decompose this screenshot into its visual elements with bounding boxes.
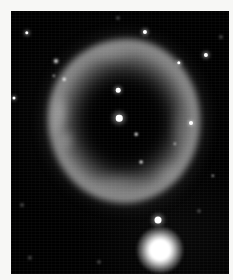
- star-glow-field-star-bright-small: [150, 212, 166, 228]
- nebula-knot-southeast-outer-wisp: [156, 163, 180, 181]
- field-star-upper-left-2: [55, 60, 58, 63]
- nebula-ring: [48, 39, 200, 203]
- nebula-knot-southwest-limb-knot: [58, 129, 74, 151]
- field-star-nebula-inner-se: [135, 133, 138, 136]
- nebula-outer-halo: [41, 31, 209, 211]
- star-glow-field-star-upper-right-2: [201, 50, 211, 60]
- star-glow-field-star-upper-left-2: [53, 58, 60, 65]
- cavity-star-north: [116, 88, 121, 93]
- field-star-upper-left-3: [53, 75, 55, 77]
- field-star-top-mid: [117, 17, 119, 19]
- star-glow-ring-edge-star-east: [187, 119, 196, 128]
- star-glow-field-star-upper-left-1: [23, 29, 31, 37]
- saturated-foreground-star-halo: [137, 227, 183, 273]
- field-star-nebula-ese: [174, 143, 176, 145]
- field-star-nebula-nw: [63, 78, 66, 81]
- field-star-upper-right-1: [143, 30, 147, 34]
- diffraction-spike-0: [148, 240, 173, 260]
- central-star: [116, 115, 123, 122]
- nebula-knot-west-limb-filament: [51, 95, 69, 129]
- diffraction-spike-2: [156, 239, 163, 261]
- field-star-upper-right-3: [177, 61, 180, 64]
- diffraction-spike-1: [147, 246, 172, 255]
- nebula-knot-south-limb-brightening: [92, 174, 144, 192]
- field-star-lower-right-2: [198, 210, 200, 212]
- star-glow-field-star-upper-right-1: [140, 27, 150, 37]
- star-glow-cavity-star-north: [113, 85, 124, 96]
- plate-scanline-texture: [11, 11, 229, 274]
- nebula-knot-east-limb-brightening: [172, 106, 188, 150]
- field-star-nebula-south: [140, 161, 143, 164]
- star-glow-field-star-upper-right-3: [175, 59, 183, 67]
- saturated-foreground-star-core: [150, 240, 170, 260]
- star-glow-field-star-left-edge: [11, 95, 18, 102]
- field-star-lower-left-2: [29, 257, 31, 259]
- field-star-upper-right-2: [204, 53, 208, 57]
- nebula-knot-north-limb-brightening: [90, 46, 134, 62]
- nebula-inner-cavity: [63, 57, 187, 187]
- nebula-knot-west-bright-arc: [51, 114, 63, 138]
- star-glow-central-star: [111, 110, 128, 127]
- field-star-bottom-mid: [98, 261, 100, 263]
- ring-edge-star-east: [189, 121, 193, 125]
- sky-field: [11, 11, 229, 274]
- field-star-lower-right-1: [212, 175, 214, 177]
- field-star-top-right-edge: [220, 36, 222, 38]
- sky-background-wash: [11, 11, 229, 274]
- photograph-frame: [0, 0, 233, 280]
- field-star-left-edge: [13, 97, 16, 100]
- field-star-lower-left-1: [21, 204, 23, 206]
- field-star-bright-small: [155, 217, 162, 224]
- field-star-upper-left-1: [25, 31, 28, 34]
